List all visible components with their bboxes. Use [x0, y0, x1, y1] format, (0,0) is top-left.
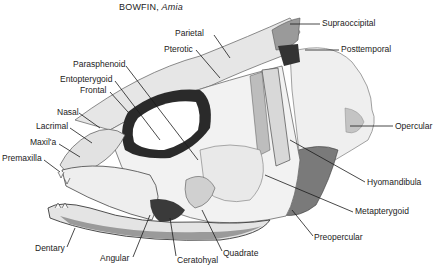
- leader-line-ceratohyal: [170, 218, 176, 256]
- leader-line-lacrimal: [70, 128, 92, 143]
- label-supraoccipital: Supraoccipital: [322, 18, 375, 28]
- leader-line-preopercular: [292, 210, 313, 236]
- label-opercular: Opercular: [395, 121, 432, 131]
- label-parasphenoid: Parasphenoid: [73, 59, 125, 69]
- label-quadrate: Quadrate: [223, 248, 258, 258]
- leader-line-pterotic: [196, 50, 220, 78]
- figure-title: BOWFIN, Amia: [119, 2, 183, 12]
- label-ceratohyal: Ceratohyal: [177, 255, 218, 265]
- leader-line-angular: [133, 215, 150, 257]
- leader-line-dentary: [67, 228, 75, 247]
- label-entopterygoid: Entopterygoid: [60, 74, 112, 84]
- leader-line-parasphenoid: [126, 66, 198, 160]
- label-parietal: Parietal: [175, 28, 204, 38]
- figure-canvas: BOWFIN, Amia Parietal Supraoccipital Pte…: [0, 0, 437, 266]
- leader-line-quadrate: [202, 210, 222, 251]
- label-preopercular: Preopercular: [314, 232, 363, 242]
- label-metapterygoid: Metapterygoid: [355, 206, 409, 216]
- label-dentary: Dentary: [35, 243, 65, 253]
- leader-line-entopterygoid: [115, 81, 160, 140]
- label-posttemporal: Posttemporal: [341, 44, 391, 54]
- label-nasal: Nasal: [57, 107, 79, 117]
- leader-line-premaxilla: [44, 160, 60, 172]
- label-premaxilla: Premaxilla: [2, 153, 42, 163]
- label-pterotic: Pterotic: [164, 44, 193, 54]
- label-lacrimal: Lacrimal: [36, 121, 68, 131]
- label-frontal: Frontal: [80, 85, 106, 95]
- leader-line-parietal: [214, 35, 230, 58]
- label-maxilla: Maxil'a: [30, 137, 56, 147]
- leader-line-nasal: [79, 113, 100, 128]
- figure-title-genus: Amia: [162, 2, 183, 12]
- leader-lines: [0, 0, 437, 266]
- label-angular: Angular: [100, 253, 129, 263]
- label-hyomandibula: Hyomandibula: [367, 177, 421, 187]
- leader-line-hyomandibula: [290, 140, 365, 182]
- leader-line-metapterygoid: [265, 175, 353, 212]
- leader-line-maxilla: [59, 144, 80, 157]
- figure-title-common-name: BOWFIN,: [119, 2, 159, 12]
